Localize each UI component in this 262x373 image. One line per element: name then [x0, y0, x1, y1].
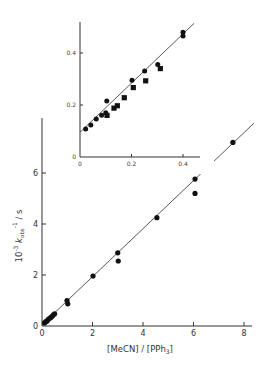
data-point-circle — [154, 215, 159, 220]
chart-figure: 024680246 [MeCN] / [PPh3] 10-3 kobs-1 / … — [0, 0, 262, 373]
x-tick-label: 4 — [140, 329, 145, 338]
inset-data-point-square — [143, 78, 148, 83]
inset-data-point-square — [158, 66, 163, 71]
y-axis-title: 10-3 kobs-1 / s — [11, 209, 25, 262]
inset-background — [66, 14, 214, 174]
inset-data-point-square — [131, 85, 136, 90]
x-axis-title: [MeCN] / [PPh3] — [107, 344, 173, 355]
y-tick-label: 2 — [33, 271, 38, 280]
x-tick-label: 0 — [39, 329, 44, 338]
data-point-circle — [90, 273, 95, 278]
inset-data-point-circle — [130, 78, 135, 83]
inset-data-point-circle — [142, 68, 147, 73]
inset-data-point-square — [104, 113, 109, 118]
inset-y-tick-label: 0.2 — [66, 101, 76, 108]
inset-data-point-square — [115, 103, 120, 108]
inset-y-tick-label: 0.4 — [66, 49, 76, 56]
inset-x-tick-label: 0.2 — [127, 160, 137, 167]
data-point-circle — [115, 250, 120, 255]
y-tick-label: 6 — [33, 169, 38, 178]
inset-data-point-square — [122, 95, 127, 100]
inset-data-point-circle — [181, 34, 186, 39]
data-point-circle — [192, 177, 197, 182]
main-ticks: 024680246 — [33, 169, 247, 338]
inset-data-point-circle — [83, 126, 88, 131]
y-tick-label: 0 — [33, 322, 38, 331]
data-point-circle — [116, 258, 121, 263]
x-tick-label: 8 — [241, 329, 246, 338]
inset-x-tick-label: 0 — [78, 160, 82, 167]
y-tick-label: 4 — [33, 220, 38, 229]
data-point-circle — [65, 301, 70, 306]
inset-x-tick-label: 0.4 — [178, 160, 188, 167]
data-point-circle — [230, 140, 235, 145]
x-tick-label: 6 — [191, 329, 196, 338]
inset-plot: 00.20.400.20.4 — [66, 14, 214, 174]
data-point-circle — [192, 191, 197, 196]
x-tick-label: 2 — [90, 329, 95, 338]
inset-data-point-circle — [104, 99, 109, 104]
inset-data-point-circle — [88, 123, 93, 128]
inset-y-tick-label: 0 — [72, 153, 76, 160]
data-point-circle — [52, 311, 57, 316]
inset-data-point-circle — [94, 117, 99, 122]
